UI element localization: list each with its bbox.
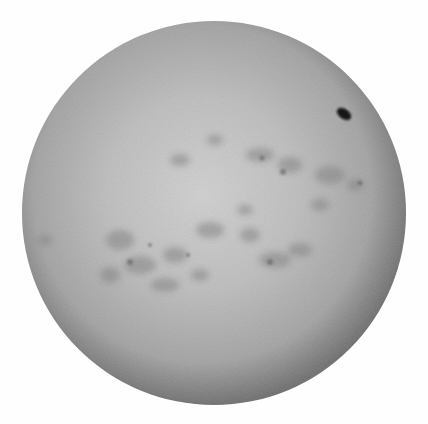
sun-disk-graphic — [0, 0, 428, 424]
solar-image — [0, 0, 428, 424]
sun-disk — [22, 21, 406, 405]
